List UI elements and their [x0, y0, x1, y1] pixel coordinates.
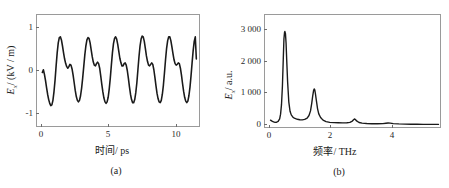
panel-b-xtick-label-0: 0 [267, 131, 272, 140]
panel-a-y-axis-symbol: E [5, 88, 16, 94]
panel-a-xtick-mark-0 [41, 124, 42, 127]
panel-a-x-axis-title-cjk: 时间 [95, 145, 115, 156]
panel-b-x-axis-title: 频率/ THz [313, 146, 356, 157]
panel-b-ytick-mark-0 [264, 124, 267, 125]
panel-a-ytick-mark-0 [36, 70, 39, 71]
panel-b-plot-svg [265, 15, 440, 127]
panel-b-xtick-label-2: 2 [328, 131, 333, 140]
panel-b-ytick-mark-1000 [264, 92, 267, 93]
panel-b-plot-frame [264, 14, 441, 128]
panel-b-xtick-mark-4 [392, 125, 393, 128]
panel-a-waveform-line [42, 36, 196, 106]
panel-a-ytick-label-0: 0 [25, 66, 33, 75]
panel-a-y-axis-title: Ex/ (kV / m) [5, 46, 21, 95]
panel-b-ytick-label-0: 0 [231, 120, 261, 129]
panel-a-ytick-mark-1 [36, 27, 39, 28]
panel-a-caption: (a) [110, 165, 121, 176]
panel-a-x-axis-title: 时间/ ps [95, 145, 129, 156]
panel-a-xtick-mark-5 [108, 124, 109, 127]
panel-a-y-axis-subscript: x [11, 85, 19, 88]
panel-b-xtick-mark-0 [269, 125, 270, 128]
panel-b-xtick-label-4: 4 [390, 131, 395, 140]
panel-a-xtick-label-10: 10 [172, 130, 181, 139]
panel-a-plot-svg [37, 15, 199, 126]
panel-a-xtick-label-0: 0 [39, 130, 44, 139]
panel-a-ytick-label-neg1: -1 [23, 109, 33, 118]
panel-b-spectrum-line [270, 31, 438, 124]
panel-b-y-axis-subscript: x [229, 90, 237, 93]
panel-b-x-axis-title-unit: / THz [333, 146, 356, 157]
panel-b-ytick-mark-2000 [264, 61, 267, 62]
panel-a-y-axis-unit: / (kV / m) [5, 46, 16, 86]
panel-b-x-axis-title-cjk: 频率 [313, 146, 333, 157]
panel-a: 1 0 -1 0 5 10 时间/ ps Ex/ (kV / m) (a) [0, 0, 225, 188]
panel-a-xtick-label-5: 5 [106, 130, 111, 139]
panel-b-y-axis-symbol: E [223, 93, 234, 99]
panel-b-ytick-label-2000: 2 000 [231, 57, 261, 66]
panel-a-ytick-label-1: 1 [25, 23, 33, 32]
panel-a-xtick-mark-10 [176, 124, 177, 127]
panel-a-ytick-mark-neg1 [36, 113, 39, 114]
panel-a-plot-frame [36, 14, 200, 127]
panel-b-xtick-mark-2 [330, 125, 331, 128]
panel-b-caption: (b) [333, 166, 345, 177]
panel-b-ytick-mark-3000 [264, 29, 267, 30]
figure-container: 1 0 -1 0 5 10 时间/ ps Ex/ (kV / m) (a) 3 [0, 0, 449, 188]
panel-b-y-axis-unit: / a.u. [223, 71, 234, 91]
panel-b-y-axis-title: Ex/ a.u. [223, 71, 239, 100]
panel-b-ytick-label-3000: 3 000 [231, 25, 261, 34]
panel-a-x-axis-title-unit: / ps [115, 145, 129, 156]
panel-b: 3 000 2 000 1 000 0 0 2 4 频率/ THz Ex/ a.… [225, 0, 449, 188]
